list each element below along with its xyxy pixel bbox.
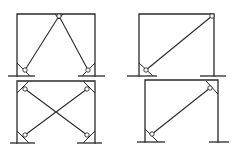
frame-panel-chevron-brace bbox=[8, 14, 105, 76]
pin-joint-icon bbox=[23, 133, 27, 137]
pin-joint-icon bbox=[23, 87, 27, 91]
pin-joint-icon bbox=[85, 133, 89, 137]
pin-joint-icon bbox=[57, 14, 61, 18]
pin-joint-icon bbox=[23, 68, 27, 72]
brace-member bbox=[152, 88, 210, 134]
brace-member bbox=[59, 16, 88, 70]
frame-panel-single-diagonal-brace-fixed bbox=[137, 80, 229, 142]
pin-joint-icon bbox=[85, 87, 89, 91]
bracing-diagram bbox=[0, 0, 236, 155]
brace-member bbox=[146, 16, 212, 70]
pin-joint-icon bbox=[210, 14, 214, 18]
portal-frame bbox=[17, 14, 95, 76]
pin-joint-icon bbox=[86, 68, 90, 72]
pin-joint-icon bbox=[150, 132, 154, 136]
diagram-canvas bbox=[0, 0, 236, 155]
frame-panel-single-diagonal-brace bbox=[127, 14, 226, 76]
pin-joint-icon bbox=[208, 86, 212, 90]
pin-joint-icon bbox=[144, 68, 148, 72]
brace-member bbox=[25, 16, 59, 70]
frame-panel-x-brace bbox=[10, 81, 102, 143]
